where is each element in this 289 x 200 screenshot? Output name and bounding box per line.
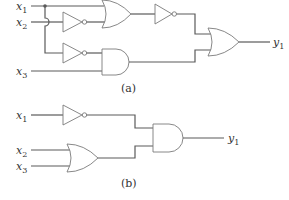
not-bubble (82, 20, 86, 24)
not-bubble (82, 113, 86, 117)
not-gate-a-x1 (63, 43, 82, 63)
or-gate-a-1 (102, 0, 131, 28)
output-label-a-y1: y1 (272, 36, 284, 51)
input-label-b-x3: x3 (16, 160, 27, 175)
not-gate-a-or1 (155, 4, 172, 24)
wire-a-x1-branch (45, 6, 63, 53)
wire-a-not-to-or2 (177, 14, 212, 34)
not-bubble (172, 12, 176, 16)
wire-b-not-to-and (87, 115, 153, 128)
caption-a: (a) (121, 82, 136, 95)
not-gate-a-x2 (63, 12, 82, 32)
input-label-b-x2: x2 (16, 144, 27, 159)
circuit-b: x1 x2 x3 y1 (b) (16, 105, 239, 190)
output-label-b-y1: y1 (227, 132, 239, 147)
input-label-a-x1: x1 (16, 0, 27, 15)
logic-circuit-diagram: x1 x2 x3 y1 (0, 0, 289, 200)
or-gate-b (67, 144, 98, 172)
and-gate-a (102, 49, 129, 75)
circuit-a: x1 x2 x3 y1 (16, 0, 284, 95)
caption-b: (b) (121, 177, 137, 190)
input-label-b-x1: x1 (16, 109, 27, 124)
not-bubble (82, 51, 86, 55)
and-gate-b (153, 124, 183, 152)
wire-b-or-to-and (98, 146, 153, 158)
input-label-a-x2: x2 (16, 16, 27, 31)
or-gate-a-final (208, 28, 239, 56)
not-gate-b-x1 (63, 105, 82, 125)
wire-a-and-to-or2 (129, 50, 211, 62)
input-label-a-x3: x3 (16, 65, 27, 80)
